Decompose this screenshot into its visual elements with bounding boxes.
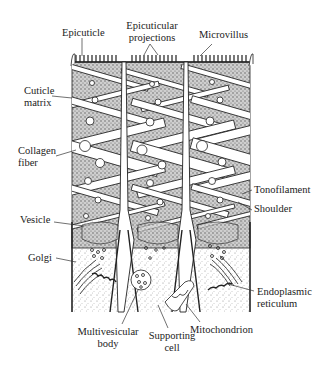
label-endoplasmic-reticulum: Endoplasmic reticulum xyxy=(257,286,312,310)
label-microvillus: Microvillus xyxy=(199,29,248,41)
label-collagen-fiber-line2: fiber xyxy=(18,157,56,169)
label-multivesicular-body-line2: body xyxy=(76,338,140,350)
label-cuticle-matrix-line2: matrix xyxy=(24,97,54,109)
label-collagen-fiber: Collagen fiber xyxy=(18,145,56,169)
label-multivesicular-body: Multivesicular body xyxy=(76,326,140,350)
label-epicuticular-projections-line1: Epicuticular xyxy=(122,20,182,32)
epicuticular-projections xyxy=(76,55,246,62)
label-supporting-cell-line2: cell xyxy=(144,342,200,354)
label-multivesicular-body-line1: Multivesicular xyxy=(76,326,140,338)
label-shoulder: Shoulder xyxy=(254,203,292,215)
label-cuticle-matrix: Cuticle matrix xyxy=(24,85,54,109)
label-epicuticle: Epicuticle xyxy=(62,27,105,39)
label-endoplasmic-reticulum-line2: reticulum xyxy=(257,298,312,310)
label-cuticle-matrix-line1: Cuticle xyxy=(24,85,54,97)
label-epicuticular-projections: Epicuticular projections xyxy=(122,20,182,44)
label-golgi: Golgi xyxy=(28,252,52,264)
label-collagen-fiber-line1: Collagen xyxy=(18,145,56,157)
label-epicuticular-projections-line2: projections xyxy=(122,32,182,44)
label-endoplasmic-reticulum-line1: Endoplasmic xyxy=(257,286,312,298)
label-vesicle: Vesicle xyxy=(20,214,50,226)
label-mitochondrion: Mitochondrion xyxy=(190,324,253,336)
label-tonofilament: Tonofilament xyxy=(254,184,310,196)
